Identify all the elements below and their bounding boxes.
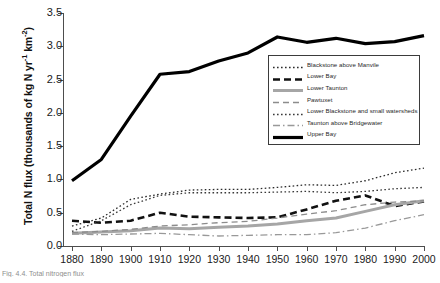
x-tick-mark [424, 246, 425, 251]
legend-line-swatch [273, 129, 303, 140]
y-axis-title-sup1: -1 [20, 55, 29, 61]
x-tick-mark [395, 246, 396, 251]
y-tick-label: 1.5 [22, 140, 62, 151]
legend-item: Lower Bay [273, 71, 415, 83]
y-tick-label: 2.0 [22, 107, 62, 118]
x-tick-label: 2000 [404, 254, 440, 265]
legend-line-swatch [273, 59, 303, 70]
legend-item-label: Lower Blackstone and small watersheds [307, 108, 418, 114]
legend-item-label: Pawtuxet [307, 97, 332, 103]
y-tick-label: 3.5 [22, 7, 62, 18]
legend-item-label: Blackstone above Manvile [307, 62, 379, 68]
legend-item-label: Taunton above Bridgewater [307, 120, 382, 126]
legend-line-swatch [273, 82, 303, 93]
figure-caption: Fig. 4.4. Total nitrogen flux [2, 270, 302, 277]
legend-item: Blackstone above Manvile [273, 59, 415, 71]
legend-line-swatch [273, 94, 303, 105]
x-tick-mark [365, 246, 366, 251]
legend-line-swatch [273, 106, 303, 117]
x-tick-mark [101, 246, 102, 251]
legend-item-label: Lower Taunton [307, 85, 348, 91]
x-tick-mark [248, 246, 249, 251]
y-tick-label: 2.5 [22, 74, 62, 85]
y-tick-label: 0.0 [22, 240, 62, 251]
x-tick-mark [307, 246, 308, 251]
y-tick-label: 0.5 [22, 207, 62, 218]
legend-item: Lower Blackstone and small watersheds [273, 105, 415, 117]
x-tick-mark [189, 246, 190, 251]
x-tick-mark [277, 246, 278, 251]
y-axis-title-end: ) [22, 27, 34, 30]
series-line [72, 201, 424, 233]
x-axis-line [63, 246, 425, 247]
x-tick-mark [131, 246, 132, 251]
legend-line-swatch [273, 71, 303, 82]
legend-line-swatch [273, 117, 303, 128]
x-tick-mark [72, 246, 73, 251]
y-axis-title-sup2: -2 [20, 30, 29, 36]
legend-item-label: Lower Bay [307, 73, 336, 79]
legend-item-label: Upper Bay [307, 131, 336, 137]
legend-item: Taunton above Bridgewater [273, 117, 415, 129]
legend-item: Pawtuxet [273, 94, 415, 106]
legend-item: Upper Bay [273, 129, 415, 141]
x-tick-mark [336, 246, 337, 251]
y-tick-label: 3.0 [22, 40, 62, 51]
x-tick-mark [219, 246, 220, 251]
x-tick-mark [160, 246, 161, 251]
legend-item: Lower Taunton [273, 82, 415, 94]
y-tick-label: 1.0 [22, 173, 62, 184]
legend: Blackstone above ManvileLower BayLower T… [268, 55, 420, 145]
